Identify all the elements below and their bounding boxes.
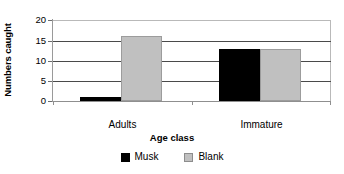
legend-item-musk: Musk [121, 152, 159, 162]
plot-area [53, 20, 331, 101]
legend-label-blank: Blank [198, 152, 223, 162]
bar-adults-blank [121, 36, 162, 101]
legend-swatch-blank-icon [184, 153, 193, 162]
x-axis-title: Age class [0, 133, 344, 143]
y-tick-label-20: 20 [18, 15, 46, 25]
y-axis-title: Numbers caught [3, 23, 13, 97]
y-tick-label-15: 15 [18, 36, 46, 46]
x-category-label-immature: Immature [192, 120, 331, 130]
x-tick-mark-middle [192, 101, 193, 105]
y-axis-title-container: Numbers caught [0, 14, 16, 106]
bar-immature-musk [219, 49, 260, 101]
legend-item-blank: Blank [184, 152, 223, 162]
gridline-15 [53, 41, 331, 42]
x-category-label-adults: Adults [53, 120, 192, 130]
y-tick-label-0: 0 [18, 96, 46, 106]
x-tick-mark-left [53, 101, 54, 105]
bar-immature-blank [260, 49, 301, 101]
y-tick-label-10: 10 [18, 56, 46, 66]
bar-chart-figure: Numbers caught 20 15 10 5 0 Adults Immat… [0, 0, 344, 174]
chart-legend: Musk Blank [0, 152, 344, 162]
y-tick-label-5: 5 [18, 76, 46, 86]
y-axis-tick-labels: 20 15 10 5 0 [18, 0, 46, 174]
legend-swatch-musk-icon [121, 153, 130, 162]
x-tick-mark-right [330, 101, 331, 105]
legend-label-musk: Musk [135, 152, 159, 162]
